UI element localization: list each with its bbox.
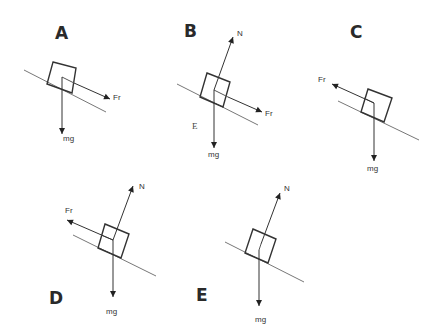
block — [361, 89, 392, 122]
panel-label: B — [184, 21, 197, 41]
panel-label: A — [55, 23, 69, 43]
arrowhead-icon — [110, 291, 116, 297]
weight-label: mg — [208, 150, 219, 159]
friction-force-vector: Fr — [228, 97, 273, 118]
normal-label: N — [237, 29, 243, 38]
panel-label: E — [196, 285, 208, 305]
panel-a: AFrmg — [24, 23, 121, 143]
friction-label: Fr — [318, 75, 326, 84]
friction-force-vector: Fr — [65, 206, 113, 240]
weight-label: mg — [63, 134, 74, 143]
friction-label: Fr — [65, 206, 73, 215]
panel-label: C — [350, 22, 362, 42]
panel-e: ENmg — [196, 184, 304, 324]
incline-surface — [338, 101, 419, 140]
arrowhead-icon — [211, 142, 217, 148]
arrowhead-icon — [371, 155, 377, 161]
weight-label: mg — [106, 307, 117, 316]
friction-label: Fr — [113, 93, 121, 102]
weight-label: mg — [367, 164, 378, 173]
force-origin-line — [214, 90, 228, 97]
weight-force-vector: mg — [106, 240, 117, 316]
friction-force-vector: Fr — [318, 75, 374, 103]
stray-annotation: E — [192, 121, 198, 131]
panel-d: DNFrmg — [49, 182, 156, 316]
weight-label: mg — [255, 315, 266, 324]
force-origin-line — [259, 244, 261, 250]
panel-label: D — [49, 288, 63, 308]
panel-c: CFrmg — [318, 22, 419, 173]
free-body-diagrams-figure: AFrmgBNFrmgECFrmgDNFrmgENmg — [0, 0, 442, 336]
panel-b: BNFrmgE — [177, 21, 273, 159]
friction-label: Fr — [265, 109, 273, 118]
weight-force-vector: mg — [59, 77, 74, 143]
force-origin-line — [62, 77, 74, 83]
weight-force-vector: mg — [367, 103, 378, 173]
normal-label: N — [139, 182, 145, 191]
normal-label: N — [284, 184, 290, 193]
arrowhead-icon — [256, 300, 262, 306]
normal-force-vector: N — [113, 182, 145, 240]
